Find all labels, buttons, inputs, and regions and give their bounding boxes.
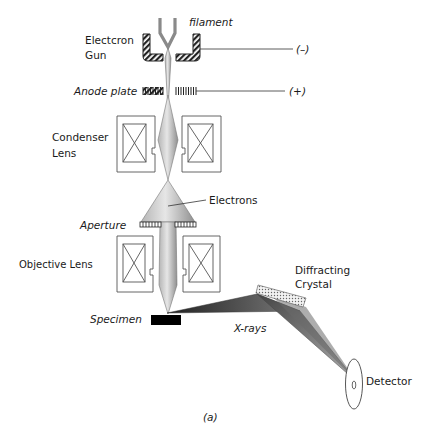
xray-beam xyxy=(167,294,357,382)
label-diffracting-line1: Diffracting xyxy=(295,264,350,277)
label-electron-gun-line2: Gun xyxy=(85,49,134,62)
label-xrays: X-rays xyxy=(234,322,266,335)
label-electron-gun-line1: Electcron xyxy=(85,34,134,47)
label-negative-terminal: (–) xyxy=(296,43,309,56)
label-condenser-line2: Lens xyxy=(52,147,108,160)
label-specimen: Specimen xyxy=(90,313,142,326)
label-diffracting-crystal: Diffracting Crystal xyxy=(295,264,350,291)
label-objective-lens: Objective Lens xyxy=(19,258,93,271)
label-diffracting-line2: Crystal xyxy=(295,278,350,291)
label-electrons: Electrons xyxy=(209,194,258,207)
filament xyxy=(160,18,175,47)
label-anode-plate: Anode plate xyxy=(74,85,137,98)
sem-wds-diagram xyxy=(0,0,424,438)
label-filament: filament xyxy=(189,16,233,29)
specimen xyxy=(151,315,181,325)
detector xyxy=(346,359,363,409)
label-positive-terminal: (+) xyxy=(289,85,306,98)
label-detector: Detector xyxy=(366,375,412,388)
label-condenser-line1: Condenser xyxy=(52,131,108,144)
figure-caption: (a) xyxy=(203,411,218,424)
label-aperture: Aperture xyxy=(80,219,126,232)
label-electron-gun: Electcron Gun xyxy=(85,34,134,62)
label-condenser-lens: Condenser Lens xyxy=(52,131,108,160)
